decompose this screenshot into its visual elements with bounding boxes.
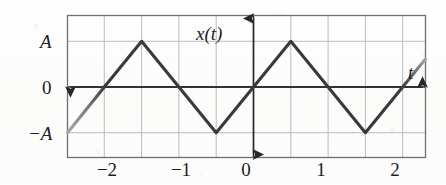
plot-canvas bbox=[0, 0, 446, 185]
y-axis-label-amplitude: A bbox=[40, 32, 52, 51]
y-axis-label-negative-amplitude: −A bbox=[28, 124, 52, 143]
waveform-left-tail bbox=[68, 87, 105, 133]
x-tick-label-two: 2 bbox=[384, 160, 406, 179]
x-tick-label-minus-2: −2 bbox=[87, 160, 127, 179]
waveform-right-tail bbox=[403, 59, 426, 87]
x-tick-label-zero: 0 bbox=[235, 160, 257, 179]
x-tick-label-minus-1: −1 bbox=[161, 160, 201, 179]
y-axis-label-zero: 0 bbox=[42, 78, 52, 97]
signal-label: x(t) bbox=[196, 24, 222, 43]
x-tick-label-one: 1 bbox=[310, 160, 332, 179]
time-axis-label: t bbox=[408, 63, 413, 82]
figure-triangle-wave: A 0 −A x(t) t −2 −1 0 1 2 bbox=[0, 0, 446, 185]
